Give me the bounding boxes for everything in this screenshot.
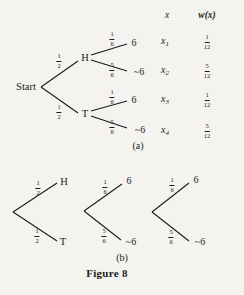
prob-t-not6-numerator: 5 <box>109 119 114 128</box>
weight-x2: 5 12 <box>203 63 212 79</box>
b-tree2-lower-numerator: 5 <box>101 228 106 237</box>
prob-start-h: 1 2 <box>56 53 61 69</box>
b-tree3-lower-numerator: 5 <box>168 229 173 238</box>
weight-x4: 5 12 <box>203 123 212 139</box>
prob-t-not6: 5 6 <box>109 119 114 135</box>
b-tree3-lower-label: ~6 <box>195 237 205 247</box>
weight-x4-numerator: 5 <box>204 123 209 132</box>
prob-h-not6-denominator: 6 <box>109 72 114 79</box>
figure-8-canvas: Start 1 2 H 1 2 T 1 6 6 5 6 ~6 1 6 6 5 6… <box>0 0 244 295</box>
weight-x3-numerator: 1 <box>204 92 209 101</box>
b-tree2-lower-prob: 5 6 <box>101 228 106 244</box>
table-cell-x4: x4 <box>161 125 169 137</box>
b-tree3-upper-prob: 1 6 <box>169 177 174 193</box>
b-tree2-lower-label: ~6 <box>126 237 136 247</box>
weight-x3: 1 12 <box>203 92 212 108</box>
x3-subscript: 3 <box>165 98 169 106</box>
outcome-t-6: 6 <box>132 95 137 105</box>
table-cell-x3: x3 <box>161 94 169 106</box>
b-tree2-upper-label: 6 <box>127 176 132 186</box>
b-tree1-lower-prob: 1 2 <box>34 228 39 244</box>
part-a-label: (a) <box>132 141 143 151</box>
prob-start-t-denominator: 2 <box>56 114 61 121</box>
b-tree3-upper-denominator: 6 <box>169 187 174 194</box>
table-cell-x1: x1 <box>161 36 169 48</box>
weight-x4-denominator: 12 <box>203 133 212 140</box>
prob-h-6-denominator: 6 <box>109 41 114 48</box>
prob-t-6-numerator: 1 <box>109 89 114 98</box>
weight-x2-numerator: 5 <box>204 63 209 72</box>
prob-t-6-denominator: 6 <box>109 99 114 106</box>
b-tree1-upper-numerator: 1 <box>35 180 40 189</box>
b-tree1-lower-label: T <box>60 237 66 248</box>
root-node-start: Start <box>16 82 36 93</box>
b-tree1-upper-denominator: 2 <box>35 190 40 197</box>
b-tree2-lower-denominator: 6 <box>101 238 106 245</box>
b-tree3-lower-prob: 5 6 <box>168 229 173 245</box>
prob-start-h-denominator: 2 <box>56 63 61 70</box>
outcome-h-6: 6 <box>132 38 137 48</box>
b-tree1-lower-numerator: 1 <box>34 228 39 237</box>
prob-t-6: 1 6 <box>109 89 114 105</box>
prob-t-not6-denominator: 6 <box>109 129 114 136</box>
weight-x1: 1 12 <box>203 34 212 50</box>
b-tree2-upper-numerator: 1 <box>102 179 107 188</box>
b-tree3-upper-numerator: 1 <box>169 177 174 186</box>
b-tree2-upper-prob: 1 6 <box>102 179 107 195</box>
b-tree3-lower-denominator: 6 <box>168 239 173 246</box>
x1-subscript: 1 <box>165 40 169 48</box>
prob-h-not6-numerator: 5 <box>109 62 114 71</box>
weight-x2-denominator: 12 <box>203 73 212 80</box>
prob-start-t: 1 2 <box>56 104 61 120</box>
x2-subscript: 2 <box>165 69 169 77</box>
figure-caption: Figure 8 <box>86 268 128 279</box>
outcome-t-not6: ~6 <box>135 125 145 135</box>
b-tree1-lower-denominator: 2 <box>34 238 39 245</box>
b-tree2-upper-denominator: 6 <box>102 189 107 196</box>
outcome-h-not6: ~6 <box>134 67 144 77</box>
x4-subscript: 4 <box>165 129 169 137</box>
prob-start-t-numerator: 1 <box>56 104 61 113</box>
prob-h-6-numerator: 1 <box>109 31 114 40</box>
node-t: T <box>82 109 88 120</box>
weight-x1-denominator: 12 <box>203 44 212 51</box>
weight-x1-numerator: 1 <box>204 34 209 43</box>
b-tree1-upper-prob: 1 2 <box>35 180 40 196</box>
table-header-wx: w(x) <box>198 11 215 21</box>
prob-h-6: 1 6 <box>109 31 114 47</box>
table-cell-x2: x2 <box>161 65 169 77</box>
prob-start-h-numerator: 1 <box>56 53 61 62</box>
part-b-label: (b) <box>116 253 128 263</box>
prob-h-not6: 5 6 <box>109 62 114 78</box>
table-header-x: x <box>165 11 169 21</box>
b-tree3-upper-label: 6 <box>194 175 199 185</box>
weight-x3-denominator: 12 <box>203 102 212 109</box>
b-tree1-upper-label: H <box>60 177 68 188</box>
node-h: H <box>81 53 89 64</box>
